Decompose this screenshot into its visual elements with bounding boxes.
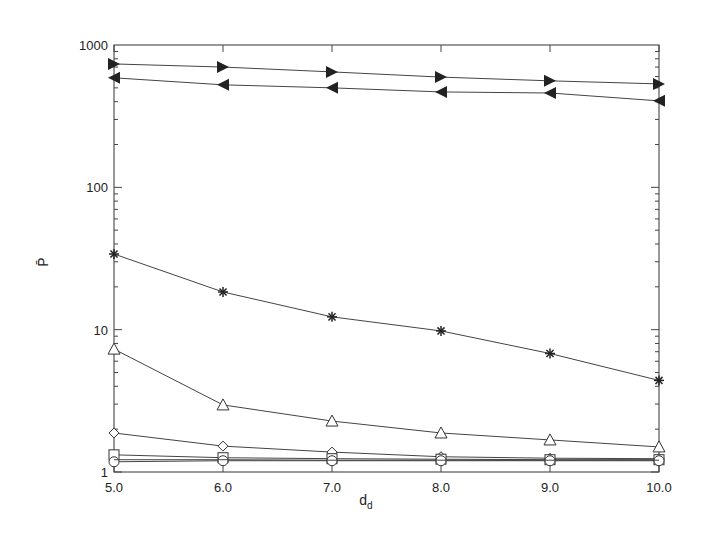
x-axis-label: dd: [359, 492, 372, 511]
series-plain: [114, 460, 659, 461]
x-tick-label: 8.0: [432, 480, 450, 495]
series-right-triangle: [108, 58, 665, 90]
y-tick-label: 1: [101, 465, 108, 480]
y-tick-label: 10: [94, 323, 108, 338]
x-tick-label: 6.0: [214, 480, 232, 495]
series-square: [109, 450, 664, 465]
axis-ticks: [114, 45, 659, 472]
x-tick-label: 10.0: [646, 480, 671, 495]
plot-frame: [114, 45, 659, 472]
x-tick-labels: 5.06.07.08.09.010.0: [105, 480, 672, 495]
y-axis-label: P̄: [35, 257, 51, 266]
series-left-triangle: [108, 72, 665, 107]
x-tick-label: 5.0: [105, 480, 123, 495]
x-tick-label: 9.0: [541, 480, 559, 495]
series-diamond: [109, 428, 664, 464]
y-tick-label: 100: [86, 180, 108, 195]
y-tick-label: 1000: [79, 38, 108, 53]
series-triangle-up: [108, 343, 665, 452]
x-tick-label: 7.0: [323, 480, 341, 495]
data-series: [108, 58, 665, 467]
svg-text:P̄: P̄: [35, 257, 51, 266]
chart: 1101001000 5.06.07.08.09.010.0 dd P̄: [0, 0, 707, 539]
y-tick-labels: 1101001000: [79, 38, 108, 480]
series-star: [109, 249, 664, 385]
